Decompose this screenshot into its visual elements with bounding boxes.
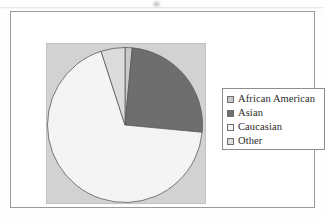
legend-swatch-caucasian bbox=[227, 124, 234, 131]
pie-chart bbox=[47, 44, 207, 205]
legend-swatch-other bbox=[227, 138, 234, 145]
legend-label-caucasian: Caucasian bbox=[238, 120, 282, 134]
legend-swatch-asian bbox=[227, 110, 234, 117]
legend-item-other[interactable]: Other bbox=[227, 134, 321, 148]
pie-slice-asian[interactable] bbox=[125, 48, 203, 132]
legend-item-african-american[interactable]: African American bbox=[227, 92, 321, 106]
legend-label-african-american: African American bbox=[238, 92, 315, 106]
chart-legend: African American Asian Caucasian Other bbox=[222, 88, 325, 150]
pie-slice-group bbox=[48, 47, 203, 202]
pie-chart-svg bbox=[47, 44, 207, 205]
legend-label-other: Other bbox=[238, 134, 262, 148]
legend-item-caucasian[interactable]: Caucasian bbox=[227, 120, 321, 134]
scan-artifact bbox=[152, 0, 161, 7]
scan-edge-band bbox=[0, 7, 324, 9]
legend-swatch-african-american bbox=[227, 96, 234, 103]
legend-label-asian: Asian bbox=[238, 106, 263, 120]
pie-chart-plot-area bbox=[46, 43, 206, 204]
legend-item-asian[interactable]: Asian bbox=[227, 106, 321, 120]
figure-frame: African American Asian Caucasian Other bbox=[10, 11, 315, 208]
